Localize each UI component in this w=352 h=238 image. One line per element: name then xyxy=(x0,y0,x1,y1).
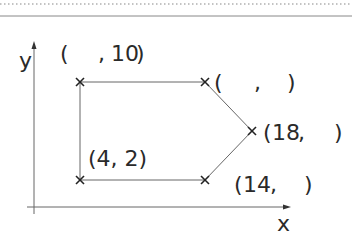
svg-text:): ) xyxy=(136,41,145,66)
svg-text:,: , xyxy=(298,120,305,145)
pentagon-diagram: y x ( , 10 ) ( , ) ( 18 , ) ( 14 , ) (4,… xyxy=(0,0,352,238)
svg-text:,: , xyxy=(254,70,261,95)
svg-text:,: , xyxy=(270,172,277,197)
x-marker-icon xyxy=(248,127,256,135)
x-axis-label: x xyxy=(277,211,290,236)
svg-text:,: , xyxy=(98,41,105,66)
svg-text:): ) xyxy=(287,70,296,95)
svg-text:(: ( xyxy=(234,172,243,197)
svg-text:(: ( xyxy=(263,120,272,145)
label-top-right: ( , ) xyxy=(214,70,296,95)
svg-text:(: ( xyxy=(214,70,223,95)
y-axis-label: y xyxy=(19,48,32,73)
label-top-left: ( , 10 ) xyxy=(60,41,145,66)
svg-text:): ) xyxy=(334,120,343,145)
svg-text:14: 14 xyxy=(243,172,271,197)
label-right: ( 18 , ) xyxy=(263,120,343,145)
svg-text:18: 18 xyxy=(272,120,300,145)
svg-text:): ) xyxy=(304,172,313,197)
label-bottom-right: ( 14 , ) xyxy=(234,172,313,197)
svg-text:10: 10 xyxy=(111,41,139,66)
label-bottom-left: (4, 2) xyxy=(88,146,147,171)
x-axis-arrow-icon xyxy=(283,205,291,210)
y-axis-arrow-icon xyxy=(32,41,37,49)
svg-text:(: ( xyxy=(60,41,69,66)
